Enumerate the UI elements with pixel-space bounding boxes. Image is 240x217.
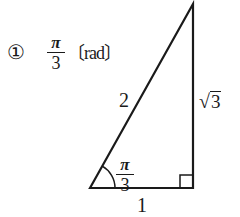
answer-fraction: π 3 [47, 34, 65, 72]
hypotenuse-label: 2 [119, 90, 129, 110]
angle-arc [102, 166, 115, 188]
angle-denominator: 3 [121, 176, 130, 194]
right-angle-mark [180, 175, 193, 188]
triangle-outline [90, 4, 193, 188]
angle-numerator: π [120, 156, 129, 173]
base-label: 1 [137, 195, 147, 215]
answer-unit: 〔rad〕 [67, 44, 121, 62]
radical-sign: √ [199, 91, 210, 111]
vertical-side-label: √ 3 [199, 91, 221, 111]
answer-marker: ① [7, 42, 25, 62]
answer-denominator: 3 [52, 54, 61, 72]
radicand: 3 [210, 91, 222, 111]
angle-label: π 3 [116, 156, 134, 194]
answer-numerator: π [51, 34, 60, 51]
